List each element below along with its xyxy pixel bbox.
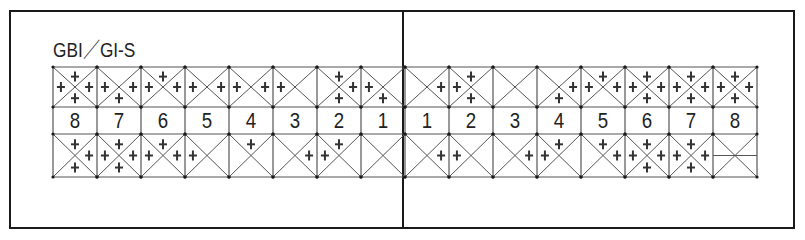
plus-icon bbox=[731, 93, 739, 103]
tooth-number: 3 bbox=[496, 108, 533, 134]
tooth-cell-lower-lower-right-1 bbox=[359, 132, 406, 178]
plus-icon bbox=[453, 82, 461, 92]
plus-icon bbox=[629, 82, 637, 92]
plus-icon bbox=[687, 163, 695, 173]
tooth-cell-lower-lower-left-4 bbox=[535, 132, 582, 178]
tooth-number: 7 bbox=[100, 108, 137, 134]
plus-icon bbox=[643, 163, 651, 173]
plus-icon bbox=[145, 82, 153, 92]
plus-icon bbox=[85, 82, 93, 92]
plus-icon bbox=[189, 151, 197, 161]
plus-icon bbox=[129, 82, 137, 92]
plus-icon bbox=[101, 82, 109, 92]
plus-icon bbox=[585, 82, 593, 92]
tooth-cell-upper-upper-right-5 bbox=[183, 65, 230, 108]
tooth-cell-upper-upper-right-6 bbox=[139, 65, 186, 108]
plus-icon bbox=[247, 139, 255, 149]
plus-icon bbox=[629, 151, 637, 161]
plus-icon bbox=[233, 82, 241, 92]
plus-icon bbox=[717, 82, 725, 92]
plus-icon bbox=[657, 82, 665, 92]
tooth-cell-lower-lower-left-8 bbox=[711, 132, 758, 178]
tooth-number: 7 bbox=[672, 108, 709, 134]
plus-icon bbox=[467, 72, 475, 82]
tooth-cell-upper-upper-left-7 bbox=[667, 65, 714, 108]
plus-icon bbox=[745, 82, 753, 92]
tooth-number: 8 bbox=[56, 108, 93, 134]
plus-icon bbox=[101, 151, 109, 161]
tooth-number: 2 bbox=[320, 108, 357, 134]
plus-icon bbox=[569, 82, 577, 92]
tooth-cell-upper-upper-right-1 bbox=[359, 65, 406, 108]
plus-icon bbox=[555, 93, 563, 103]
plus-icon bbox=[599, 72, 607, 82]
plus-icon bbox=[349, 82, 357, 92]
plus-icon bbox=[71, 93, 79, 103]
plus-icon bbox=[335, 72, 343, 82]
plus-icon bbox=[115, 93, 123, 103]
tooth-cell-lower-lower-right-6 bbox=[139, 132, 186, 178]
tooth-cell-lower-lower-right-5 bbox=[183, 132, 230, 178]
tooth-cell-lower-lower-left-1 bbox=[403, 132, 450, 178]
tooth-cell-upper-upper-right-3 bbox=[271, 65, 318, 108]
plus-icon bbox=[437, 82, 445, 92]
plus-icon bbox=[731, 72, 739, 82]
plus-icon bbox=[115, 163, 123, 173]
tooth-cell-lower-lower-right-7 bbox=[95, 132, 142, 178]
tooth-number: 6 bbox=[144, 108, 181, 134]
plus-icon bbox=[173, 151, 181, 161]
plus-icon bbox=[321, 151, 329, 161]
tooth-number: 1 bbox=[408, 108, 445, 134]
plus-icon bbox=[613, 151, 621, 161]
tooth-cell-upper-upper-right-2 bbox=[315, 65, 362, 108]
tooth-cell-upper-upper-right-4 bbox=[227, 65, 274, 108]
plus-icon bbox=[673, 82, 681, 92]
tooth-cell-lower-lower-left-6 bbox=[623, 132, 670, 178]
plus-icon bbox=[467, 93, 475, 103]
plus-icon bbox=[687, 72, 695, 82]
plus-icon bbox=[525, 151, 533, 161]
plus-icon bbox=[261, 82, 269, 92]
tooth-number: 3 bbox=[276, 108, 313, 134]
plus-icon bbox=[643, 72, 651, 82]
plus-icon bbox=[145, 151, 153, 161]
plus-icon bbox=[129, 151, 137, 161]
plus-icon bbox=[335, 93, 343, 103]
plus-icon bbox=[335, 139, 343, 149]
tooth-number: 4 bbox=[232, 108, 269, 134]
tooth-cell-upper-upper-left-6 bbox=[623, 65, 670, 108]
plus-icon bbox=[85, 151, 93, 161]
plus-icon bbox=[305, 151, 313, 161]
tooth-cell-lower-lower-left-3 bbox=[491, 132, 538, 178]
plus-icon bbox=[277, 82, 285, 92]
plus-icon bbox=[687, 139, 695, 149]
plus-icon bbox=[555, 139, 563, 149]
plus-icon bbox=[71, 139, 79, 149]
tooth-number: 5 bbox=[584, 108, 621, 134]
plus-icon bbox=[159, 139, 167, 149]
plus-icon bbox=[701, 151, 709, 161]
plus-icon bbox=[217, 82, 225, 92]
plus-icon bbox=[57, 82, 65, 92]
tooth-cell-lower-lower-left-2 bbox=[447, 132, 494, 178]
plus-icon bbox=[687, 93, 695, 103]
plus-icon bbox=[115, 139, 123, 149]
tooth-cell-upper-upper-left-4 bbox=[535, 65, 582, 108]
tooth-cell-upper-upper-left-3 bbox=[491, 65, 538, 108]
tooth-cell-lower-lower-left-7 bbox=[667, 132, 714, 178]
tooth-cell-lower-lower-right-3 bbox=[271, 132, 318, 178]
plus-icon bbox=[159, 72, 167, 82]
tooth-cell-upper-upper-left-8 bbox=[711, 65, 758, 108]
tooth-cell-lower-lower-right-2 bbox=[315, 132, 362, 178]
plus-icon bbox=[437, 151, 445, 161]
plus-icon bbox=[365, 82, 373, 92]
tooth-cell-upper-upper-right-8 bbox=[51, 65, 98, 108]
tooth-cell-lower-lower-left-5 bbox=[579, 132, 626, 178]
tooth-number: 8 bbox=[716, 108, 753, 134]
tooth-number: 2 bbox=[452, 108, 489, 134]
plus-icon bbox=[673, 151, 681, 161]
tooth-cell-upper-upper-left-2 bbox=[447, 65, 494, 108]
plus-icon bbox=[173, 82, 181, 92]
plus-icon bbox=[643, 93, 651, 103]
tooth-number: 6 bbox=[628, 108, 665, 134]
